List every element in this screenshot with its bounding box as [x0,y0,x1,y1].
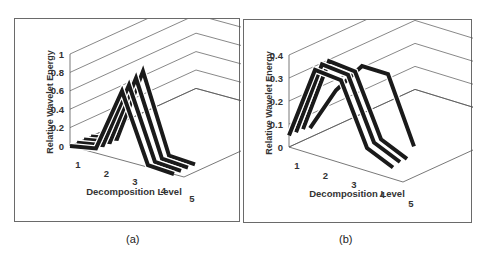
y-tick-label: 0 [278,142,283,153]
gridline-back [196,88,241,119]
gridline-back [415,66,473,101]
y-tick-label: 0 [59,141,64,152]
gridline-side [289,20,415,55]
gridline-back [196,19,241,46]
gridline-side [70,19,196,54]
gridline-back [196,52,241,83]
chart-panel-b: 00.10.20.30.412345Decomposition LevelRel… [243,19,472,223]
caption-a: (a) [126,233,139,245]
gridline-back [196,70,241,101]
caption-b: (b) [339,233,352,245]
y-axis-title: Relative Wavelet Energy [45,50,55,154]
gridline-back [196,19,241,27]
gridline-back [196,33,241,64]
gridline-back [415,89,473,124]
y-tick-label: 1 [59,49,65,60]
x-tick-label: 5 [189,193,195,204]
x-axis-title: Decomposition Level [309,188,405,199]
x-tick-label: 2 [323,170,328,181]
chart-b-plot: 00.10.20.30.412345Decomposition LevelRel… [244,20,473,224]
x-tick-label: 2 [104,168,109,179]
x-tick-label: 1 [294,160,300,171]
gridline-back [415,20,473,55]
chart-panel-a: 00.20.40.60.8112345Decomposition LevelRe… [14,18,240,222]
x-axis-title: Decomposition Level [86,186,182,197]
y-axis-title: Relative Wavelet Energy [264,51,274,155]
chart-a-plot: 00.20.40.60.8112345Decomposition LevelRe… [15,19,241,223]
gridline-back [415,43,473,78]
x-tick-label: 1 [75,159,81,170]
x-tick-label: 5 [408,198,414,209]
gridline-back [415,20,473,32]
